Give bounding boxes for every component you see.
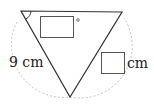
angle-answer-box[interactable]: [40, 16, 74, 38]
side-length-label: 9 cm: [9, 55, 43, 69]
triangle-diagram: [0, 0, 154, 105]
unit-label: cm: [127, 56, 148, 70]
angle-marker: [26, 11, 31, 19]
degree-symbol: [77, 19, 80, 22]
length-answer-box[interactable]: [101, 52, 125, 74]
